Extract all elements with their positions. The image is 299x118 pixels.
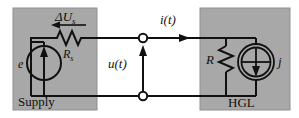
ut-label: u(t) bbox=[108, 56, 127, 71]
hgl-block-label: HGL bbox=[228, 95, 255, 110]
circuit-diagram-canvas: ΔUs e Rs u(t) i(t) R j Supply HGL bbox=[0, 0, 299, 118]
terminal-bottom-node[interactable] bbox=[139, 92, 147, 100]
load-resistor-r-label: R bbox=[205, 52, 214, 67]
rs-subscript: s bbox=[70, 54, 73, 63]
delta-us-subscript: s bbox=[72, 16, 76, 26]
supply-block-label: Supply bbox=[18, 94, 55, 109]
ut-arrow-head bbox=[139, 45, 147, 56]
it-arrow-head bbox=[179, 34, 190, 42]
it-label: i(t) bbox=[160, 12, 176, 27]
source-e-label: e bbox=[18, 57, 24, 71]
terminal-top-node[interactable] bbox=[139, 34, 147, 42]
